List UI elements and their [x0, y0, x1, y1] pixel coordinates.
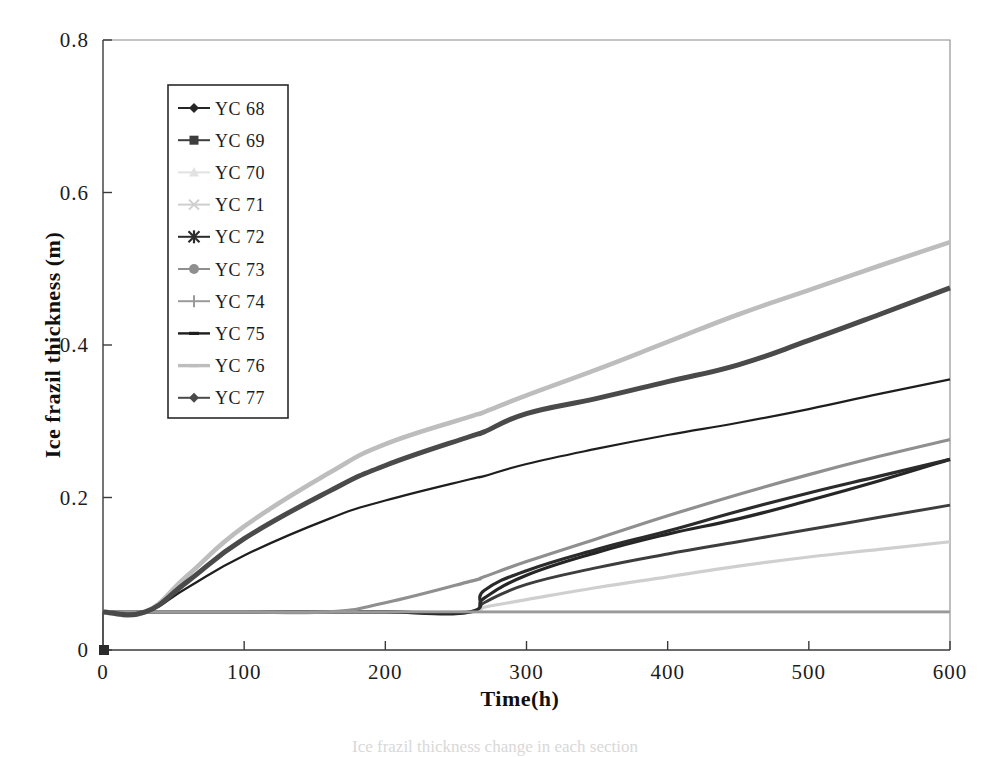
- figure-caption: Ice frazil thickness change in each sect…: [352, 737, 639, 756]
- y-tick-label: 0.2: [60, 486, 89, 510]
- legend-item-label: YC 76: [215, 356, 265, 376]
- y-tick-label: 0.6: [60, 181, 89, 205]
- y-axis-ticks: [103, 40, 112, 650]
- x-axis-title: Time(h): [481, 686, 560, 711]
- legend-item-label: YC 75: [215, 324, 265, 344]
- y-tick-label: 0.8: [60, 28, 89, 52]
- y-tick-label: 0: [78, 638, 90, 662]
- series-line-yc-71: [103, 542, 950, 613]
- y-axis-title: Ice frazil thickness (m): [40, 232, 65, 458]
- x-tick-label: 200: [368, 660, 403, 684]
- legend-item-label: YC 68: [215, 99, 265, 119]
- x-tick-label: 600: [933, 660, 968, 684]
- legend-item-label: YC 73: [215, 260, 265, 280]
- figure-container: 0.80.60.40.20 0100200300400500600 Ice fr…: [0, 0, 991, 757]
- x-axis-ticks: [103, 641, 950, 650]
- x-tick-label: 100: [227, 660, 262, 684]
- legend-item-label: YC 71: [215, 195, 265, 215]
- x-tick-label: 500: [792, 660, 827, 684]
- line-chart: 0.80.60.40.20 0100200300400500600 Ice fr…: [0, 0, 991, 757]
- legend-item-label: YC 70: [215, 163, 265, 183]
- x-axis-tick-labels: 0100200300400500600: [97, 660, 967, 684]
- x-tick-label: 400: [650, 660, 685, 684]
- legend-item-label: YC 74: [215, 292, 265, 312]
- legend-marker-square: [190, 136, 199, 145]
- chart-legend: YC 68YC 69YC 70YC 71YC 72YC 73YC 74YC 75…: [168, 85, 288, 418]
- legend-item-label: YC 72: [215, 227, 265, 247]
- origin-marker: [99, 645, 109, 655]
- series-line-yc-69: [103, 505, 950, 613]
- legend-item-label: YC 69: [215, 131, 265, 151]
- x-tick-label: 0: [97, 660, 109, 684]
- legend-marker-circle: [189, 264, 199, 274]
- legend-item-label: YC 77: [215, 388, 265, 408]
- x-tick-label: 300: [509, 660, 544, 684]
